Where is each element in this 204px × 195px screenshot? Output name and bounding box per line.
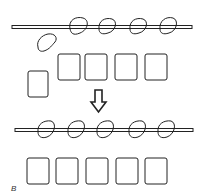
offset-square xyxy=(28,71,48,97)
aligned-square xyxy=(58,54,80,80)
aligned-square xyxy=(145,54,167,80)
loose-blob xyxy=(38,34,57,51)
aligned-square xyxy=(86,158,108,184)
attached-blob xyxy=(97,121,114,138)
attached-blob xyxy=(68,121,85,138)
diagram-canvas xyxy=(0,0,204,195)
aligned-square xyxy=(115,54,137,80)
aligned-square xyxy=(27,158,49,184)
aligned-square xyxy=(145,158,167,184)
aligned-square xyxy=(56,158,78,184)
attached-blob xyxy=(38,121,55,138)
panel-label: B xyxy=(11,184,16,193)
bottom-bar xyxy=(15,129,193,132)
attached-blob xyxy=(99,18,116,33)
attached-blob xyxy=(130,18,147,33)
attached-blob xyxy=(129,121,146,138)
aligned-square xyxy=(85,54,107,80)
down-arrow-icon xyxy=(91,90,106,112)
bottom-stage xyxy=(15,121,193,184)
attached-blob xyxy=(158,121,175,138)
aligned-square xyxy=(116,158,138,184)
top-bar xyxy=(12,26,192,29)
top-stage xyxy=(12,17,192,97)
